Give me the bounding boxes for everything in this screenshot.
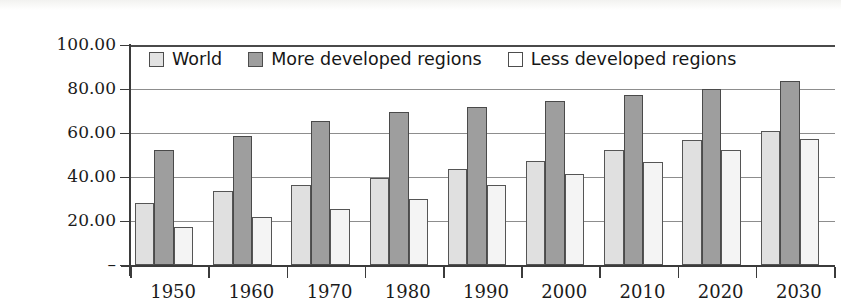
bar-group-2000 — [526, 45, 585, 265]
legend: WorldMore developed regionsLess develope… — [149, 51, 736, 69]
x-label-1950: 1950 — [128, 281, 218, 299]
y-tick-label-80: 80.00 — [6, 78, 116, 98]
x-tick-end — [834, 267, 836, 278]
legend-item-1[interactable]: More developed regions — [248, 51, 482, 69]
bar-1970-series-1 — [311, 121, 331, 265]
bar-1990-series-1 — [467, 107, 487, 265]
x-tick-2010 — [599, 267, 601, 278]
x-tick-1970 — [287, 267, 289, 278]
bar-2010-series-0 — [604, 150, 624, 266]
bar-1960-series-0 — [213, 191, 233, 265]
legend-item-2[interactable]: Less developed regions — [508, 51, 737, 69]
bar-group-2020 — [682, 45, 741, 265]
bar-2000-series-2 — [565, 174, 585, 265]
bar-1970-series-0 — [291, 185, 311, 265]
x-tick-1950 — [130, 267, 132, 278]
bar-group-1970 — [291, 45, 350, 265]
x-tick-2000 — [521, 267, 523, 278]
bar-chart: –20.0040.0060.0080.00100.00 195019601970… — [0, 0, 841, 299]
legend-label-2: Less developed regions — [531, 51, 737, 69]
x-label-2020: 2020 — [676, 281, 766, 299]
x-label-2030: 2030 — [754, 281, 841, 299]
x-label-2010: 2010 — [597, 281, 687, 299]
x-axis-line — [121, 265, 835, 267]
bar-1950-series-2 — [174, 227, 194, 266]
bar-1980-series-2 — [409, 199, 429, 265]
bar-1990-series-2 — [487, 185, 507, 265]
x-tick-1960 — [208, 267, 210, 278]
x-label-1960: 1960 — [206, 281, 296, 299]
plot-area: 195019601970198019902000201020202030 Wor… — [131, 45, 835, 265]
bar-group-2030 — [761, 45, 820, 265]
bar-group-1990 — [448, 45, 507, 265]
legend-item-0[interactable]: World — [149, 51, 222, 69]
bar-2000-series-0 — [526, 161, 546, 266]
bar-1960-series-2 — [252, 217, 272, 265]
bar-2030-series-2 — [800, 139, 820, 266]
bar-2020-series-2 — [721, 150, 741, 266]
y-tick-label-0: – — [6, 254, 116, 274]
x-tick-2030 — [756, 267, 758, 278]
bar-1960-series-1 — [233, 136, 253, 265]
y-tick-60 — [120, 133, 131, 134]
y-tick-100 — [120, 45, 131, 46]
bar-2020-series-1 — [702, 89, 722, 265]
bar-1990-series-0 — [448, 169, 468, 265]
y-tick-label-20: 20.00 — [6, 210, 116, 230]
y-tick-label-100: 100.00 — [6, 34, 116, 54]
bar-1950-series-0 — [135, 203, 155, 265]
y-tick-20 — [120, 221, 131, 222]
bar-2000-series-1 — [545, 101, 565, 265]
y-tick-label-60: 60.00 — [6, 122, 116, 142]
bar-1980-series-0 — [370, 178, 390, 265]
bar-group-2010 — [604, 45, 663, 265]
legend-swatch-icon-0 — [149, 52, 164, 67]
y-tick-label-40: 40.00 — [6, 166, 116, 186]
x-tick-1980 — [365, 267, 367, 278]
bar-group-1950 — [135, 45, 194, 265]
bar-2020-series-0 — [682, 140, 702, 265]
x-label-2000: 2000 — [519, 281, 609, 299]
y-tick-0 — [120, 265, 131, 266]
x-tick-1990 — [443, 267, 445, 278]
legend-label-0: World — [172, 51, 222, 69]
bar-2030-series-0 — [761, 131, 781, 265]
legend-swatch-icon-1 — [248, 52, 263, 67]
x-label-1980: 1980 — [363, 281, 453, 299]
y-tick-80 — [120, 89, 131, 90]
y-axis-line — [129, 44, 131, 276]
y-tick-40 — [120, 177, 131, 178]
bar-group-1980 — [370, 45, 429, 265]
x-label-1990: 1990 — [441, 281, 531, 299]
x-label-1970: 1970 — [285, 281, 375, 299]
bar-1950-series-1 — [154, 150, 174, 266]
legend-label-1: More developed regions — [271, 51, 482, 69]
x-tick-2020 — [678, 267, 680, 278]
bar-2010-series-2 — [643, 162, 663, 265]
bar-1980-series-1 — [389, 112, 409, 265]
bar-2010-series-1 — [624, 95, 644, 266]
bar-group-1960 — [213, 45, 272, 265]
bar-2030-series-1 — [780, 81, 800, 265]
bar-1970-series-2 — [330, 209, 350, 265]
legend-swatch-icon-2 — [508, 52, 523, 67]
